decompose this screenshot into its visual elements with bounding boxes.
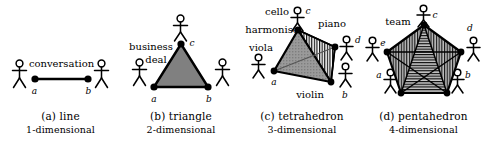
relation-label-team: team [385, 16, 411, 27]
vertex-b [328, 79, 335, 86]
line-diagram: conversation a b [0, 0, 121, 110]
vertex-c [177, 40, 184, 47]
stick-figure-person [13, 60, 27, 87]
vertex-label-a: a [271, 77, 276, 87]
caption-dimension: 2-dimensional [121, 124, 241, 135]
panel-tetrahedron: cello piano harmonise viola violin c d a… [241, 0, 363, 144]
vertex-label-e: e [380, 38, 385, 48]
stick-figure-person [366, 37, 379, 61]
vertex-label-d: d [355, 35, 361, 45]
tetrahedron-diagram: cello piano harmonise viola violin c d a… [241, 0, 363, 110]
caption-label: (a) line [0, 110, 121, 122]
caption-dimension: 3-dimensional [241, 124, 363, 135]
panel-line: conversation a b (a) line 1-dimensional [0, 0, 121, 144]
vertex-label-b: b [86, 86, 92, 96]
relation-label-deal: deal [145, 54, 166, 65]
vertex-b [84, 75, 91, 82]
stick-figure-person [252, 54, 265, 78]
caption-tetrahedron: (c) tetrahedron 3-dimensional [241, 110, 363, 135]
stick-figure-person [95, 60, 109, 87]
caption-label: (c) tetrahedron [241, 110, 363, 122]
caption-dimension: 4-dimensional [363, 124, 484, 135]
relation-label-business: business [129, 41, 173, 52]
vertex-c [421, 22, 428, 29]
relation-label-harmonise: harmonise [245, 24, 298, 35]
role-label-viola: viola [248, 42, 273, 53]
vertex-b [444, 90, 451, 97]
triangle-diagram: business deal a b c [121, 0, 241, 110]
relation-label-conversation: conversation [29, 58, 95, 69]
vertex-d [332, 44, 339, 51]
simplicial-complex-figure: conversation a b (a) line 1-dimensional [0, 0, 484, 144]
vertex-b [204, 83, 211, 90]
vertex-label-b: b [465, 70, 471, 80]
vertex-e [384, 49, 391, 56]
vertex-label-c: c [305, 6, 310, 16]
vertex-label-a: a [32, 86, 37, 96]
panel-pentahedron: team c d e a b (d) pentahedron 4-dimensi… [363, 0, 484, 144]
caption-pentahedron: (d) pentahedron 4-dimensional [363, 110, 484, 135]
panel-triangle: business deal a b c (b) triangle 2-dimen… [121, 0, 241, 144]
role-label-cello: cello [265, 6, 289, 17]
stick-figure-person [467, 37, 480, 61]
vertex-label-a: a [151, 94, 156, 104]
vertex-a [150, 83, 157, 90]
caption-label: (d) pentahedron [363, 110, 484, 122]
role-label-piano: piano [318, 18, 346, 29]
vertex-label-c: c [432, 10, 437, 20]
role-label-violin: violin [295, 89, 324, 100]
vertex-d [458, 49, 465, 56]
caption-triangle: (b) triangle 2-dimensional [121, 110, 241, 135]
vertex-label-b: b [206, 94, 212, 104]
vertex-label-a: a [376, 70, 381, 80]
stick-figure-person [174, 15, 188, 41]
stick-figure-person [216, 59, 230, 85]
stick-figure-person [340, 36, 353, 60]
caption-line: (a) line 1-dimensional [0, 110, 121, 135]
vertex-a [31, 75, 38, 82]
caption-dimension: 1-dimensional [0, 124, 121, 135]
vertex-label-d: d [467, 23, 473, 33]
vertex-a [398, 90, 405, 97]
pentahedron-diagram: team c d e a b [363, 0, 484, 110]
vertex-label-b: b [342, 90, 348, 100]
vertex-label-c: c [189, 38, 194, 48]
vertex-a [271, 68, 278, 75]
caption-label: (b) triangle [121, 110, 241, 122]
stick-figure-person [339, 63, 352, 87]
